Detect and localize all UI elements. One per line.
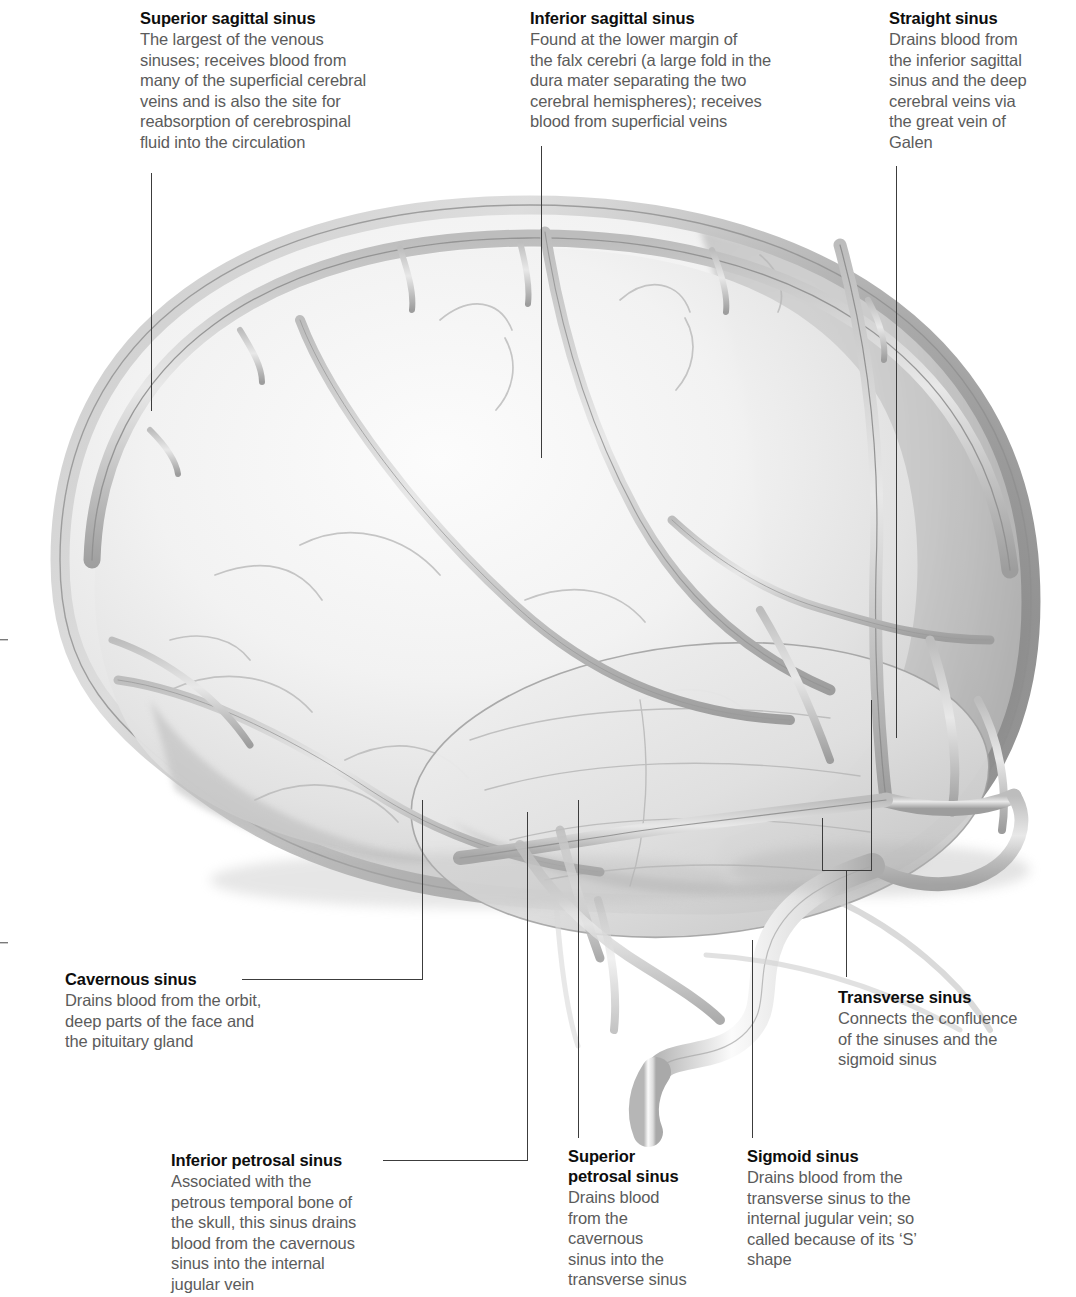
leader-line-transverse-bracket-left bbox=[822, 818, 823, 871]
leader-line-transverse-bracket-right bbox=[871, 700, 872, 871]
annotation-title: Cavernous sinus bbox=[65, 969, 325, 989]
annotation-body: Found at the lower margin of the falx ce… bbox=[530, 29, 830, 132]
leader-line-transverse-sinus-stem bbox=[846, 870, 847, 977]
annotation-body: Drains blood from the orbit, deep parts … bbox=[65, 990, 325, 1052]
annotation-body: Drains blood from the cavernous sinus in… bbox=[568, 1187, 728, 1290]
annotation-cavernous-sinus: Cavernous sinus Drains blood from the or… bbox=[65, 969, 325, 1052]
annotation-body: Drains blood from the inferior sagittal … bbox=[889, 29, 1064, 152]
leader-line-transverse-bracket-bottom bbox=[822, 870, 872, 871]
brain-illustration bbox=[0, 0, 1076, 1297]
annotation-straight-sinus: Straight sinus Drains blood from the inf… bbox=[889, 8, 1064, 152]
annotation-title: Superior sagittal sinus bbox=[140, 8, 430, 28]
page-edge-marks bbox=[0, 639, 8, 943]
annotation-title: Straight sinus bbox=[889, 8, 1064, 28]
annotation-title: Transverse sinus bbox=[838, 987, 1068, 1007]
leader-line-superior-sagittal-sinus bbox=[151, 173, 152, 411]
leader-line-cavernous-sinus-vertical bbox=[422, 800, 423, 980]
annotation-superior-petrosal-sinus: Superior petrosal sinus Drains blood fro… bbox=[568, 1146, 728, 1290]
annotation-transverse-sinus: Transverse sinus Connects the confluence… bbox=[838, 987, 1068, 1070]
annotation-title: Sigmoid sinus bbox=[747, 1146, 952, 1166]
annotation-inferior-sagittal-sinus: Inferior sagittal sinus Found at the low… bbox=[530, 8, 830, 132]
annotation-superior-sagittal-sinus: Superior sagittal sinus The largest of t… bbox=[140, 8, 430, 152]
leader-line-sigmoid-sinus bbox=[752, 940, 753, 1138]
venous-sinus-diagram: Superior sagittal sinus The largest of t… bbox=[0, 0, 1076, 1297]
annotation-inferior-petrosal-sinus: Inferior petrosal sinus Associated with … bbox=[171, 1150, 391, 1294]
annotation-sigmoid-sinus: Sigmoid sinus Drains blood from the tran… bbox=[747, 1146, 952, 1270]
leader-line-inferior-sagittal-sinus bbox=[541, 146, 542, 458]
annotation-body: The largest of the venous sinuses; recei… bbox=[140, 29, 430, 152]
annotation-body: Connects the confluence of the sinuses a… bbox=[838, 1008, 1068, 1070]
leader-line-inferior-petrosal-sinus-vertical bbox=[527, 812, 528, 1161]
leader-line-straight-sinus bbox=[896, 166, 897, 738]
annotation-title: Inferior sagittal sinus bbox=[530, 8, 830, 28]
annotation-body: Associated with the petrous temporal bon… bbox=[171, 1171, 391, 1294]
annotation-title: Superior petrosal sinus bbox=[568, 1146, 728, 1186]
leader-line-inferior-petrosal-sinus-horizontal bbox=[383, 1160, 528, 1161]
annotation-body: Drains blood from the transverse sinus t… bbox=[747, 1167, 952, 1270]
leader-line-superior-petrosal-sinus bbox=[578, 800, 579, 1138]
annotation-title: Inferior petrosal sinus bbox=[171, 1150, 391, 1170]
